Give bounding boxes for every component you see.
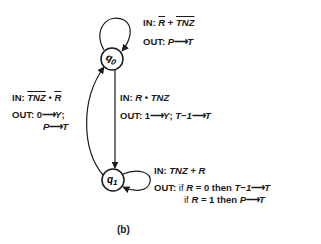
q1-to-q0-in-label: IN: TNZ • R [12, 92, 61, 103]
arrow-right-icon: ⟶ [174, 36, 187, 47]
q1-to-q0-out-label: OUT: 0⟶Y; [12, 109, 65, 120]
q1-self-out-label-2: if R = 1 then P⟶T [184, 194, 265, 205]
q1-self-in-label: IN: TNZ + R [154, 165, 205, 176]
q0-self-in-label: IN: R + TNZ [143, 17, 194, 28]
q1-self-loop-edge [123, 171, 150, 190]
arrow-right-icon: ⟶ [192, 110, 205, 121]
q0-self-out-label: OUT: P⟶T [143, 36, 193, 47]
arrow-right-icon: ⟶ [42, 109, 55, 120]
q0-self-loop-edge [100, 18, 130, 51]
arrow-right-icon: ⟶ [150, 110, 163, 121]
q0-to-q1-out-label: OUT: 1⟶Y; T−1⟶T [120, 110, 211, 121]
arrow-right-icon: ⟶ [49, 121, 62, 132]
q1-to-q0-out-label-2: P⟶T [43, 121, 68, 132]
arrow-right-icon: ⟶ [251, 182, 264, 193]
arrow-right-icon: ⟶ [246, 194, 259, 205]
q0-to-q1-in-label: IN: R • TNZ [120, 92, 169, 103]
figure-caption: (b) [117, 224, 130, 235]
q1-self-out-label: OUT: if R = 0 then T−1⟶T [154, 182, 270, 193]
q1-to-q0-edge [87, 67, 104, 175]
